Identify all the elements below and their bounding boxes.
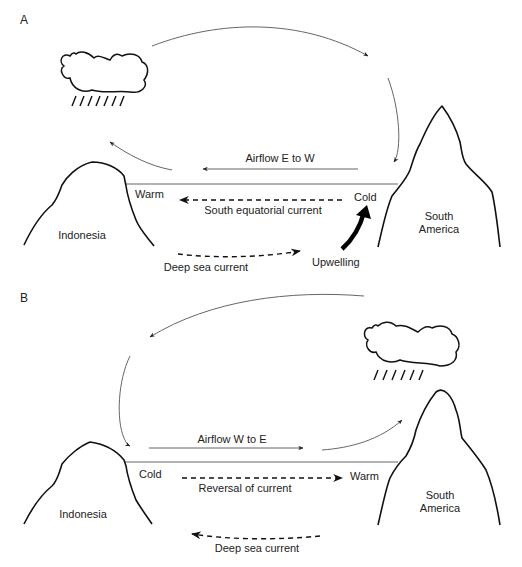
south-america-label-line1-b: South: [426, 489, 455, 501]
deep-sea-current-label-a: Deep sea current: [164, 261, 248, 273]
walker-circulation-diagram: A Airflow E to W Indonesia South America: [0, 0, 522, 567]
indonesia-label-a: Indonesia: [58, 229, 107, 241]
rain-cloud-icon: [365, 322, 459, 380]
deep-sea-current-arrow-a: [178, 251, 300, 257]
upwelling-label: Upwelling: [312, 256, 360, 268]
reversal-of-current-label: Reversal of current: [199, 482, 292, 494]
airflow-label-b: Airflow W to E: [197, 433, 266, 445]
warm-label-a: Warm: [135, 188, 164, 200]
rain-cloud-icon: [61, 52, 148, 106]
south-america-label-line2-b: America: [420, 502, 461, 514]
deep-sea-current-arrow-b: [192, 534, 320, 539]
indonesia-label-b: Indonesia: [59, 508, 108, 520]
south-america-label-line1-a: South: [425, 210, 454, 222]
panel-a: A Airflow E to W Indonesia South America: [20, 13, 500, 273]
descending-air-arrow-west: [119, 356, 130, 446]
rising-air-arrow-east: [322, 420, 402, 450]
rising-air-arrow-west: [110, 142, 172, 170]
cold-label-b: Cold: [139, 468, 162, 480]
descending-air-arrow-east: [388, 78, 399, 162]
south-america-label-line2-a: America: [419, 223, 460, 235]
cold-label-a: Cold: [354, 191, 377, 203]
airflow-label-a: Airflow E to W: [245, 152, 315, 164]
upwelling-arrowhead: [356, 205, 371, 219]
air-aloft-arrow-east-to-west: [150, 294, 364, 337]
upwelling-arrow: [342, 212, 364, 249]
rising-air-arrow-west-to-east-aloft: [152, 27, 368, 56]
warm-label-b: Warm: [350, 470, 379, 482]
panel-b: B Airflow W to E Indonesia South America…: [20, 291, 500, 554]
panel-b-label: B: [20, 291, 28, 305]
deep-sea-current-label-b: Deep sea current: [215, 542, 299, 554]
south-equatorial-current-label: South equatorial current: [204, 204, 321, 216]
panel-a-label: A: [20, 13, 28, 27]
